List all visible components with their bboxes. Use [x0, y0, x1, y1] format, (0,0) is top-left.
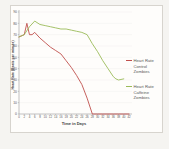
svg-text:80: 80: [13, 22, 17, 26]
legend-label-control: Heart Rate Control Zombies: [134, 58, 160, 75]
svg-text:0: 0: [15, 112, 17, 116]
svg-text:42: 42: [127, 115, 131, 119]
svg-text:4: 4: [29, 115, 31, 119]
y-axis-title: Heart Rate (Beats per minute): [11, 30, 19, 100]
control-series-marker-icon: [126, 60, 132, 61]
legend-item-control: Heart Rate Control Zombies: [126, 58, 162, 75]
svg-text:26: 26: [85, 115, 89, 119]
svg-text:14: 14: [54, 115, 58, 119]
svg-text:6: 6: [34, 115, 36, 119]
svg-text:20: 20: [70, 115, 74, 119]
svg-text:90: 90: [13, 10, 17, 14]
svg-text:22: 22: [75, 115, 79, 119]
svg-text:10: 10: [13, 101, 17, 105]
legend-label-caffeine: Heart Rate Caffeine Zombies: [134, 84, 160, 101]
svg-text:8: 8: [39, 115, 41, 119]
caffeine-series-marker-icon: [126, 86, 132, 87]
svg-text:18: 18: [65, 115, 69, 119]
svg-text:40: 40: [122, 115, 126, 119]
screenshot-root: 0102030405060708090024681012141618202224…: [0, 0, 169, 149]
svg-text:32: 32: [101, 115, 105, 119]
svg-text:0: 0: [18, 115, 20, 119]
svg-text:10: 10: [44, 115, 48, 119]
svg-text:36: 36: [112, 115, 116, 119]
x-axis-title: Time in Days: [41, 121, 107, 126]
svg-text:34: 34: [106, 115, 110, 119]
svg-text:24: 24: [80, 115, 84, 119]
svg-text:2: 2: [23, 115, 25, 119]
legend-item-caffeine: Heart Rate Caffeine Zombies: [126, 84, 162, 101]
svg-text:28: 28: [91, 115, 95, 119]
svg-text:12: 12: [49, 115, 53, 119]
svg-text:16: 16: [59, 115, 63, 119]
svg-text:30: 30: [96, 115, 100, 119]
svg-text:38: 38: [117, 115, 121, 119]
chart-frame: 0102030405060708090024681012141618202224…: [10, 5, 163, 133]
chart-legend: Heart Rate Control Zombies Heart Rate Ca…: [126, 58, 162, 110]
